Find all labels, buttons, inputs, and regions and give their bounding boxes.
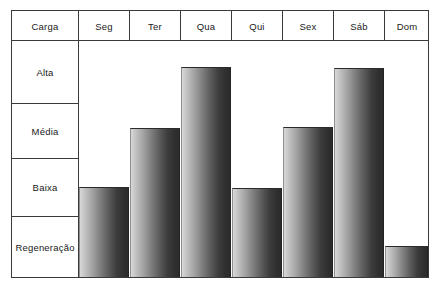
header-day-label: Ter [148, 21, 162, 32]
level-label-alta: Alta [12, 41, 78, 103]
header-day-seg: Seg [79, 11, 129, 41]
header-day-ter: Ter [130, 11, 180, 41]
level-label-regeneracao: Regeneração [12, 217, 78, 277]
header-day-label: Qui [249, 21, 264, 32]
header-corner-carga: Carga [11, 11, 79, 41]
header-day-label: Dom [397, 21, 418, 32]
header-day-qua: Qua [181, 11, 231, 41]
bar-ter [130, 128, 180, 277]
weekly-load-chart: Carga Seg Ter Qua Qui Sex Sáb Dom Alta M… [0, 0, 440, 288]
header-day-dom: Dom [385, 11, 429, 41]
bar-sab [334, 68, 384, 277]
bar-seg [79, 187, 129, 277]
header-day-label: Sáb [350, 21, 368, 32]
header-day-label: Seg [95, 21, 113, 32]
level-label-text: Média [32, 126, 59, 137]
bar-dom [385, 246, 428, 277]
header-day-qui: Qui [232, 11, 282, 41]
level-label-text: Baixa [33, 182, 58, 193]
bars-plot-area [79, 41, 428, 277]
bar-qui [232, 188, 282, 277]
level-label-media: Média [12, 104, 78, 158]
header-day-label: Qua [197, 21, 216, 32]
header-day-sab: Sáb [334, 11, 384, 41]
level-label-text: Alta [36, 67, 53, 78]
header-day-label: Sex [300, 21, 317, 32]
header-day-sex: Sex [283, 11, 333, 41]
bar-sex [283, 127, 333, 277]
level-label-text: Regeneração [15, 242, 74, 253]
level-label-baixa: Baixa [12, 159, 78, 216]
bar-qua [181, 67, 231, 277]
header-corner-label: Carga [32, 21, 59, 32]
